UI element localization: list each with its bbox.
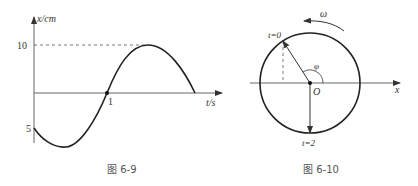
t2-label: t=2 (302, 138, 316, 148)
origin-point (308, 81, 312, 85)
svg-text:x/cm: x/cm (36, 13, 56, 24)
y-axis-label: x/cm (36, 13, 56, 24)
omega-rotation-arrow (304, 21, 344, 31)
t0-radius-vector (283, 41, 310, 83)
origin-label: O (313, 86, 320, 97)
x-axis-label: x (394, 84, 400, 95)
phi-label: φ (314, 61, 319, 71)
x-tick-1: 1 (108, 96, 113, 107)
caption-6-9: 图 6-9 (107, 164, 137, 175)
t-axis-label: t/s (206, 97, 216, 108)
caption-6-10: 图 6-10 (303, 164, 339, 175)
t0-label: t=0 (268, 30, 282, 40)
zero-crossing-point (105, 91, 109, 95)
y-tick-5: 5 (26, 123, 31, 134)
omega-label: ω (320, 8, 327, 19)
displacement-curve (34, 45, 195, 147)
y-tick-10: 10 (17, 40, 27, 51)
figure-6-10: ω φ O x t=0 t=2 图 6-10 (250, 8, 400, 175)
figure-6-9: x/cm 10 5 1 t/s 图 6-9 (17, 13, 222, 175)
figure-canvas: x/cm 10 5 1 t/s 图 6-9 ω φ O x t=0 t=2 图 … (0, 0, 418, 186)
